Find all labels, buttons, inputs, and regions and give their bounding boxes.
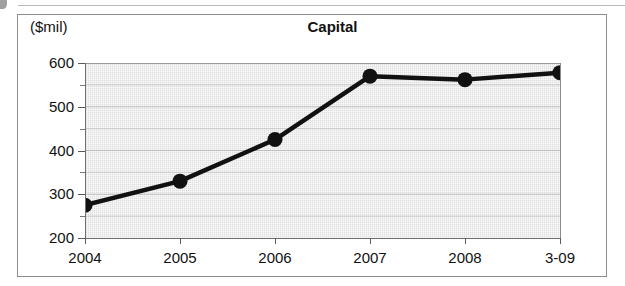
scan-artifact-top-line — [18, 5, 625, 6]
y-axis-tick-label: 400 — [28, 143, 74, 158]
data-point-marker — [458, 72, 473, 87]
data-point-marker — [85, 198, 93, 213]
x-axis-line — [85, 238, 561, 239]
scan-artifact-corner — [0, 0, 7, 9]
x-axis-tick-label: 2007 — [353, 249, 386, 266]
plot-area — [85, 63, 560, 238]
chart-title: Capital — [0, 18, 625, 35]
y-tick-minor — [80, 129, 85, 130]
x-axis-tick-label: 2006 — [258, 249, 291, 266]
y-tick-minor — [80, 172, 85, 173]
x-axis-tick-label: 3-09 — [545, 249, 575, 266]
x-axis-tick-label: 2005 — [163, 249, 196, 266]
y-axis-line — [85, 63, 86, 239]
data-point-marker — [268, 132, 283, 147]
x-axis-tick-label: 2004 — [68, 249, 101, 266]
plot-right-border — [560, 63, 561, 239]
x-tick — [180, 238, 181, 244]
x-tick — [370, 238, 371, 244]
x-tick — [560, 238, 561, 244]
data-markers — [85, 65, 560, 213]
data-point-marker — [363, 69, 378, 84]
y-tick-major — [78, 238, 85, 239]
y-tick-minor — [80, 216, 85, 217]
x-tick — [85, 238, 86, 244]
x-tick — [275, 238, 276, 244]
gridlines — [85, 85, 560, 216]
plot-top-border — [85, 63, 561, 64]
x-tick — [465, 238, 466, 244]
y-tick-major — [78, 107, 85, 108]
y-tick-major — [78, 151, 85, 152]
y-tick-minor — [80, 85, 85, 86]
data-point-marker — [173, 174, 188, 189]
x-axis-tick-label: 2008 — [448, 249, 481, 266]
data-line — [85, 73, 560, 206]
data-point-marker — [553, 65, 561, 80]
y-tick-major — [78, 63, 85, 64]
plot-svg — [85, 63, 560, 238]
y-tick-major — [78, 194, 85, 195]
y-axis-tick-label: 600 — [28, 55, 74, 70]
y-axis-tick-label: 500 — [28, 99, 74, 114]
y-axis-tick-label: 300 — [28, 186, 74, 201]
y-axis-tick-label: 200 — [28, 230, 74, 245]
